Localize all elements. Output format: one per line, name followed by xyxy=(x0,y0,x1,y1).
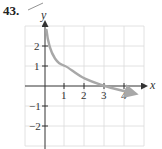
y-tick-neg1: −1 xyxy=(29,100,41,112)
x-axis-label: x xyxy=(149,78,156,92)
y-tick-2: 2 xyxy=(34,40,40,52)
x-tick-1: 1 xyxy=(61,89,67,101)
y-tick-neg2: −2 xyxy=(29,120,41,132)
y-axis-label: y xyxy=(40,8,47,22)
curve xyxy=(47,30,135,93)
x-tick-2: 2 xyxy=(81,89,87,101)
x-tick-3: 3 xyxy=(101,89,107,101)
y-tick-1: 1 xyxy=(34,60,40,72)
graph: 1 2 3 4 2 1 −1 −2 x y xyxy=(0,0,162,149)
